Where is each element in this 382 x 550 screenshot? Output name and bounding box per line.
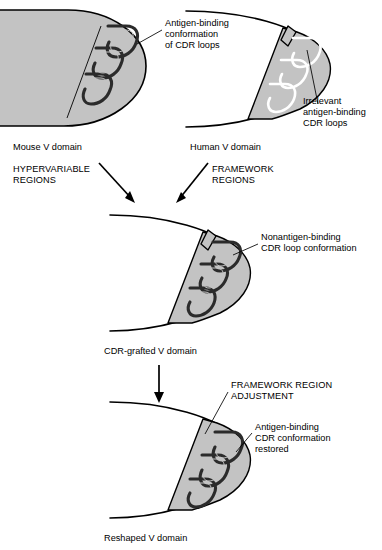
figure-root: Antigen-binding conformation of CDR loop… (0, 0, 382, 550)
panel-reshaped-v-domain: FRAMEWORK REGION ADJUSTMENT Antigen-bind… (104, 380, 332, 543)
mouse-annotation-line3: of CDR loops (165, 40, 220, 50)
hypervariable-line1: HYPERVARIABLE (13, 164, 90, 174)
hypervariable-line2: REGIONS (13, 175, 56, 185)
mouse-annotation-line2: conformation (165, 29, 218, 39)
human-annotation-line3: CDR loops (303, 118, 348, 128)
panel-grafted-v-domain: Nonantigen-binding CDR loop conformation… (104, 215, 357, 356)
framework-line2: REGIONS (212, 175, 255, 185)
panel-mouse-v-domain: Antigen-binding conformation of CDR loop… (0, 10, 229, 152)
framework-adjustment-line2: ADJUSTMENT (231, 391, 294, 401)
human-domain-caption: Human V domain (190, 142, 261, 152)
human-annotation-line2: antigen-binding (303, 107, 366, 117)
grafted-annotation-line1: Nonantigen-binding (261, 232, 341, 242)
process-framework: FRAMEWORK REGIONS (212, 164, 274, 185)
framework-adjustment-line1: FRAMEWORK REGION (231, 380, 332, 390)
mouse-domain-caption: Mouse V domain (13, 142, 82, 152)
arrow-hypervariable-to-grafted (99, 163, 135, 203)
reshaped-annotation-line1: Antigen-binding (255, 422, 319, 432)
reshaped-annotation-line2: CDR conformation (255, 433, 331, 443)
framework-line1: FRAMEWORK (212, 164, 274, 174)
process-hypervariable: HYPERVARIABLE REGIONS (13, 164, 90, 185)
arrow-framework-to-grafted (176, 163, 208, 203)
mouse-annotation-line1: Antigen-binding (165, 18, 229, 28)
reshaped-annotation-line3: restored (255, 444, 289, 454)
arrow-grafted-to-reshaped (154, 365, 164, 403)
grafted-domain-caption: CDR-grafted V domain (104, 346, 197, 356)
reshaped-domain-caption: Reshaped V domain (104, 533, 187, 543)
grafted-annotation-line2: CDR loop conformation (261, 243, 357, 253)
human-annotation-line1: Irrelevant (303, 96, 342, 106)
humanization-diagram: Antigen-binding conformation of CDR loop… (0, 0, 382, 550)
mouse-annotation-leader (137, 30, 162, 44)
